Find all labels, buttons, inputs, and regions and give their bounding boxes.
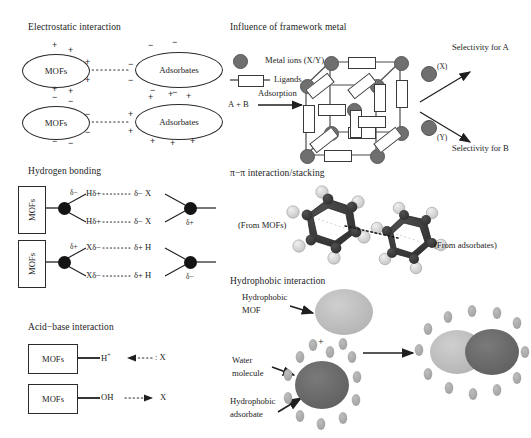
charge-minus: −	[68, 97, 73, 106]
electrostatic-row1-mof-label: MOFs	[45, 66, 68, 76]
lattice-ligand	[318, 104, 346, 116]
charge-plus: +	[85, 58, 90, 67]
charge-minus: −	[128, 60, 133, 69]
acidbase-row1-partner: : X	[155, 352, 166, 362]
charge-minus: −	[68, 139, 73, 148]
hbond-row1-donor-charge: δ−	[70, 188, 78, 197]
hbond-row2-donor-charge: δ+	[70, 242, 78, 251]
hbond-row2-acceptor-node	[184, 256, 197, 269]
charge-plus: +	[85, 76, 90, 85]
output-metal-y-dot	[421, 120, 437, 136]
legend-ligands-label: Ligands	[274, 74, 302, 84]
acidbase-row1-group: H+	[101, 352, 111, 363]
charge-plus: +	[150, 137, 155, 146]
charge-minus: −	[128, 76, 133, 85]
charge-plus: +	[52, 41, 57, 50]
hydrophobic-adsorbate-label-line2: adsorbate	[230, 409, 263, 419]
charge-plus: +	[128, 110, 133, 119]
product-adsorbate-sphere	[465, 329, 519, 375]
charge-plus: +	[186, 92, 191, 101]
charge-plus: +	[148, 93, 153, 102]
lattice-ligand	[303, 105, 315, 133]
electrostatic-row1-adsorbate-ellipse: Adsorbates	[135, 52, 223, 88]
charge-plus: +	[170, 139, 175, 148]
ligand-rod-icon	[238, 75, 264, 87]
acidbase-row2-mof-box: MOFs	[28, 384, 78, 414]
hbond-row1-mof-label: MOFs	[27, 199, 37, 221]
hbond-row2-mof-label: MOFs	[27, 253, 37, 275]
electrostatic-row2-mof-label: MOFs	[45, 118, 68, 128]
hbond-row1-arm-bottom: Hδ+	[86, 216, 101, 226]
hbond-row2-arm-top: Xδ−	[86, 242, 101, 252]
acidbase-row1-mof-box: MOFs	[28, 344, 78, 374]
charge-minus: −	[52, 137, 57, 146]
selectivity-for-a-label: Selectivity for A	[452, 42, 509, 52]
lattice-metal-node	[394, 56, 409, 71]
hbond-row1-acceptor-charge: δ+	[186, 218, 194, 227]
hbond-row1-mof-box: MOFs	[18, 186, 46, 234]
charge-plus: +	[190, 137, 195, 146]
legend-metal-ions-label: Metal ions (X/Y)	[265, 55, 324, 65]
hbond-row2-donor-node	[58, 256, 71, 269]
lattice-metal-node	[324, 56, 339, 71]
electrostatic-row2-mof-ellipse: MOFs	[22, 106, 90, 140]
benzene-ring-mof	[287, 186, 370, 264]
benzene-ring-adsorbate	[371, 202, 447, 274]
hbond-row2-arm-bottom: Xδ−	[86, 270, 101, 280]
lattice-ligand	[396, 80, 408, 108]
charge-minus: −	[172, 38, 177, 47]
electrostatic-row1-mof-ellipse: MOFs	[22, 54, 90, 88]
acidbase-row2-group: OH	[101, 392, 113, 402]
acid-base-panel-title: Acid−base interaction	[28, 322, 114, 332]
acidbase-row2-mof-label: MOFs	[42, 394, 64, 404]
hydrophobic-adsorbate-sphere	[295, 361, 349, 409]
plus-symbol: +	[318, 336, 324, 347]
hydrophobic-adsorbate-label-line1: Hydrophobic	[230, 396, 275, 406]
charge-minus: −	[52, 93, 57, 102]
hbond-row2-acceptor-bottom: δ+ H	[134, 270, 151, 280]
lattice-ligand	[374, 84, 386, 112]
electrostatic-row1-adsorbate-label: Adsorbates	[159, 65, 199, 75]
hbond-row1-arm-top: Hδ+	[86, 188, 101, 198]
lattice-ligand	[324, 150, 352, 162]
charge-minus: −	[85, 128, 90, 137]
water-molecule-label-line2: molecule	[232, 368, 264, 378]
hbond-row2-acceptor-top: δ+ H	[134, 242, 151, 252]
electrostatic-row2-adsorbate-label: Adsorbates	[159, 117, 199, 127]
lattice-ligand	[348, 57, 376, 69]
pi-stacking-panel-title: π−π interaction/stacking	[230, 168, 325, 178]
hbond-row1-acceptor-top: δ− X	[134, 188, 151, 198]
pi-stacking-right-label: (From adsorbates)	[434, 240, 497, 250]
electrostatic-row2-adsorbate-ellipse: Adsorbates	[135, 104, 223, 140]
acidbase-row1-mof-label: MOFs	[42, 354, 64, 364]
acidbase-row1-group-super: +	[107, 352, 110, 358]
framework-metal-panel-title: Influence of framework metal	[230, 22, 346, 32]
output-marker-y: (Y)	[437, 133, 447, 142]
mof-interaction-figure: Electrostatic interaction MOFs + + + + +…	[0, 0, 531, 438]
hbond-row2-mof-box: MOFs	[18, 240, 46, 288]
input-species-label: A + B	[228, 99, 249, 109]
hbond-row1-acceptor-bottom: δ− X	[134, 216, 151, 226]
metal-ion-dot-icon	[233, 54, 248, 69]
water-molecule-label-line1: Water	[232, 355, 252, 365]
lattice-ligand	[358, 116, 386, 128]
hbond-row1-donor-node	[58, 202, 71, 215]
electrostatic-panel-title: Electrostatic interaction	[28, 22, 121, 32]
lattice-metal-node	[300, 149, 315, 164]
output-metal-x-dot	[421, 66, 437, 82]
hydrophobic-panel-title: Hydrophobic interaction	[230, 276, 325, 286]
charge-plus: +	[168, 90, 173, 99]
charge-minus: −	[85, 110, 90, 119]
hbond-row2-acceptor-charge: δ−	[186, 272, 194, 281]
hydrogen-bonding-panel-title: Hydrogen bonding	[28, 166, 101, 176]
hydrophobic-mof-label-line2: MOF	[242, 305, 261, 315]
pi-stacking-left-label: (From MOFs)	[238, 220, 286, 230]
charge-plus: +	[128, 127, 133, 136]
acidbase-row2-partner: X	[160, 392, 166, 402]
adsorption-label: Adsorption	[258, 88, 297, 98]
hydrophobic-mof-pointer	[290, 306, 313, 313]
hydrophobic-mof-label-line1: Hydrophobic	[242, 292, 287, 302]
charge-minus: −	[148, 41, 153, 50]
hbond-row1-acceptor-node	[184, 202, 197, 215]
hydrophobic-mof-sphere	[315, 289, 373, 335]
